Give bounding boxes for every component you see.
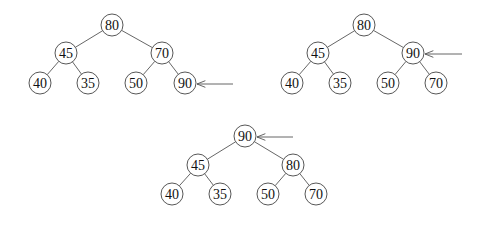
heap-node: 45 [187,154,209,176]
tree-edge [75,31,102,48]
heap-tree-step-1: 80457040355090 [29,14,233,94]
heap-node: 80 [353,14,375,36]
heap-tree-step-2: 80459040355070 [281,14,462,94]
node-value: 45 [59,46,73,61]
node-value: 40 [33,76,47,91]
heap-node: 35 [209,183,231,205]
pointer-arrow-icon [257,134,293,141]
tree-edge [205,174,214,185]
node-value: 70 [429,76,443,91]
node-value: 40 [285,76,299,91]
tree-edge [254,142,283,160]
node-value: 35 [81,76,95,91]
node-value: 90 [238,129,252,144]
tree-edge [327,31,354,48]
tree-edge [395,61,406,74]
heap-node: 35 [77,72,99,94]
tree-edge [179,173,190,186]
tree-edge [299,61,311,74]
node-value: 35 [333,76,347,91]
node-value: 40 [165,187,179,202]
tree-edge [207,142,235,159]
heap-tree-step-3: 90458040355070 [161,125,327,205]
heap-node: 40 [281,72,303,94]
node-value: 70 [155,46,169,61]
heap-node: 40 [29,72,51,94]
tree-edge [169,62,179,75]
tree-edge [73,62,82,74]
node-value: 80 [286,158,300,173]
node-value: 45 [311,46,325,61]
tree-edge [275,173,286,185]
node-value: 90 [406,46,420,61]
tree-edge [374,30,404,47]
heap-node: 50 [257,183,279,205]
pointer-arrow-icon [197,81,233,88]
heap-node: 40 [161,183,183,205]
heap-node: 50 [125,72,147,94]
tree-edge [122,30,153,47]
node-value: 35 [213,187,227,202]
heap-node: 80 [101,14,123,36]
heap-node: 45 [55,42,77,64]
tree-edge [300,174,309,186]
heap-node: 90 [174,72,196,94]
node-value: 70 [309,187,323,202]
tree-edge [143,61,155,74]
heap-node: 70 [151,42,173,64]
node-value: 50 [129,76,143,91]
tree-edge [47,61,59,74]
node-value: 90 [178,76,192,91]
heap-diagram: 8045704035509080459040355070904580403550… [0,0,488,225]
heap-node: 90 [234,125,256,147]
tree-edge [420,62,430,75]
pointer-arrow-icon [425,51,462,58]
tree-edge [325,62,334,74]
heap-node: 70 [305,183,327,205]
heap-node: 45 [307,42,329,64]
heap-node: 80 [282,154,304,176]
heap-node: 70 [425,72,447,94]
heap-node: 90 [402,42,424,64]
node-value: 80 [357,18,371,33]
node-value: 80 [105,18,119,33]
heap-node: 35 [329,72,351,94]
node-value: 50 [381,76,395,91]
heap-node: 50 [377,72,399,94]
node-value: 50 [261,187,275,202]
node-value: 45 [191,158,205,173]
